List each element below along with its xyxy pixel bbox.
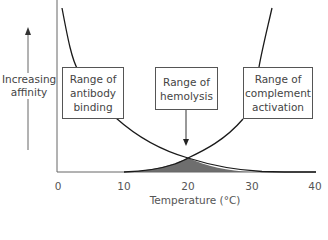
antibody-binding-box: Range of antibody binding bbox=[62, 67, 124, 119]
x-tick-30: 30 bbox=[245, 180, 258, 192]
complement-activation-line-2: complement bbox=[245, 86, 311, 100]
x-tick-20: 20 bbox=[181, 180, 194, 192]
y-axis-label-line-1: Increasing bbox=[2, 73, 56, 86]
hemolysis-shaded-region bbox=[124, 158, 252, 172]
antibody-binding-line-2: antibody bbox=[70, 86, 117, 100]
hemolysis-line-1: Range of bbox=[160, 75, 213, 89]
antibody-binding-line-1: Range of bbox=[70, 72, 117, 86]
y-axis-label: Increasing affinity bbox=[2, 73, 56, 99]
hemolysis-pointer-arrowhead bbox=[183, 139, 189, 146]
y-axis-label-line-2: affinity bbox=[2, 86, 56, 99]
hemolysis-line-2: hemolysis bbox=[160, 89, 213, 103]
x-tick-0: 0 bbox=[55, 180, 62, 192]
hemolysis-box: Range of hemolysis bbox=[155, 67, 218, 110]
x-axis-label: Temperature (°C) bbox=[150, 194, 241, 206]
affinity-arrow-head bbox=[25, 27, 31, 35]
antibody-binding-line-3: binding bbox=[70, 100, 117, 114]
complement-activation-line-3: activation bbox=[245, 100, 311, 114]
x-tick-10: 10 bbox=[117, 180, 130, 192]
x-tick-40: 40 bbox=[308, 180, 321, 192]
complement-activation-line-1: Range of bbox=[245, 72, 311, 86]
complement-activation-box: Range of complement activation bbox=[243, 67, 313, 119]
